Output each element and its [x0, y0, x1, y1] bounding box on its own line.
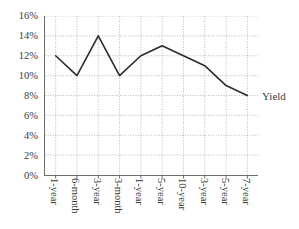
x-tick-label: 5-year: [219, 178, 230, 205]
y-tick-label: 12%: [19, 51, 38, 62]
x-axis-labels: 1-year6-month3-year3-month1-year5-year10…: [44, 176, 258, 229]
x-tick-label: 1-year: [134, 178, 145, 205]
y-tick-label: 2%: [24, 151, 38, 162]
y-tick-label: 10%: [19, 71, 38, 82]
plot-area: [44, 16, 258, 176]
yield-curve-chart: 16%14%12%10%8%6%4%2%0% 1-year6-month3-ye…: [0, 0, 299, 229]
x-tick-label: 3-year: [91, 178, 102, 205]
x-tick-label: 1-year: [48, 178, 59, 205]
x-tick-label: 7-year: [241, 178, 252, 205]
y-axis-labels: 16%14%12%10%8%6%4%2%0%: [0, 0, 41, 229]
x-tick-label: 10-year: [177, 178, 188, 210]
y-tick-label: 8%: [24, 91, 38, 102]
y-tick-label: 16%: [19, 11, 38, 22]
y-tick-label: 14%: [19, 31, 38, 42]
y-tick-label: 4%: [24, 131, 38, 142]
y-tick-label: 0%: [24, 171, 38, 182]
series-label-yield: Yield: [262, 91, 286, 102]
x-tick-label: 6-month: [70, 178, 81, 214]
y-tick-label: 6%: [24, 111, 38, 122]
x-tick-label: 3-month: [112, 178, 123, 214]
series-yield-line: [45, 16, 258, 175]
x-tick-label: 5-year: [155, 178, 166, 205]
x-tick-label: 3-year: [198, 178, 209, 205]
